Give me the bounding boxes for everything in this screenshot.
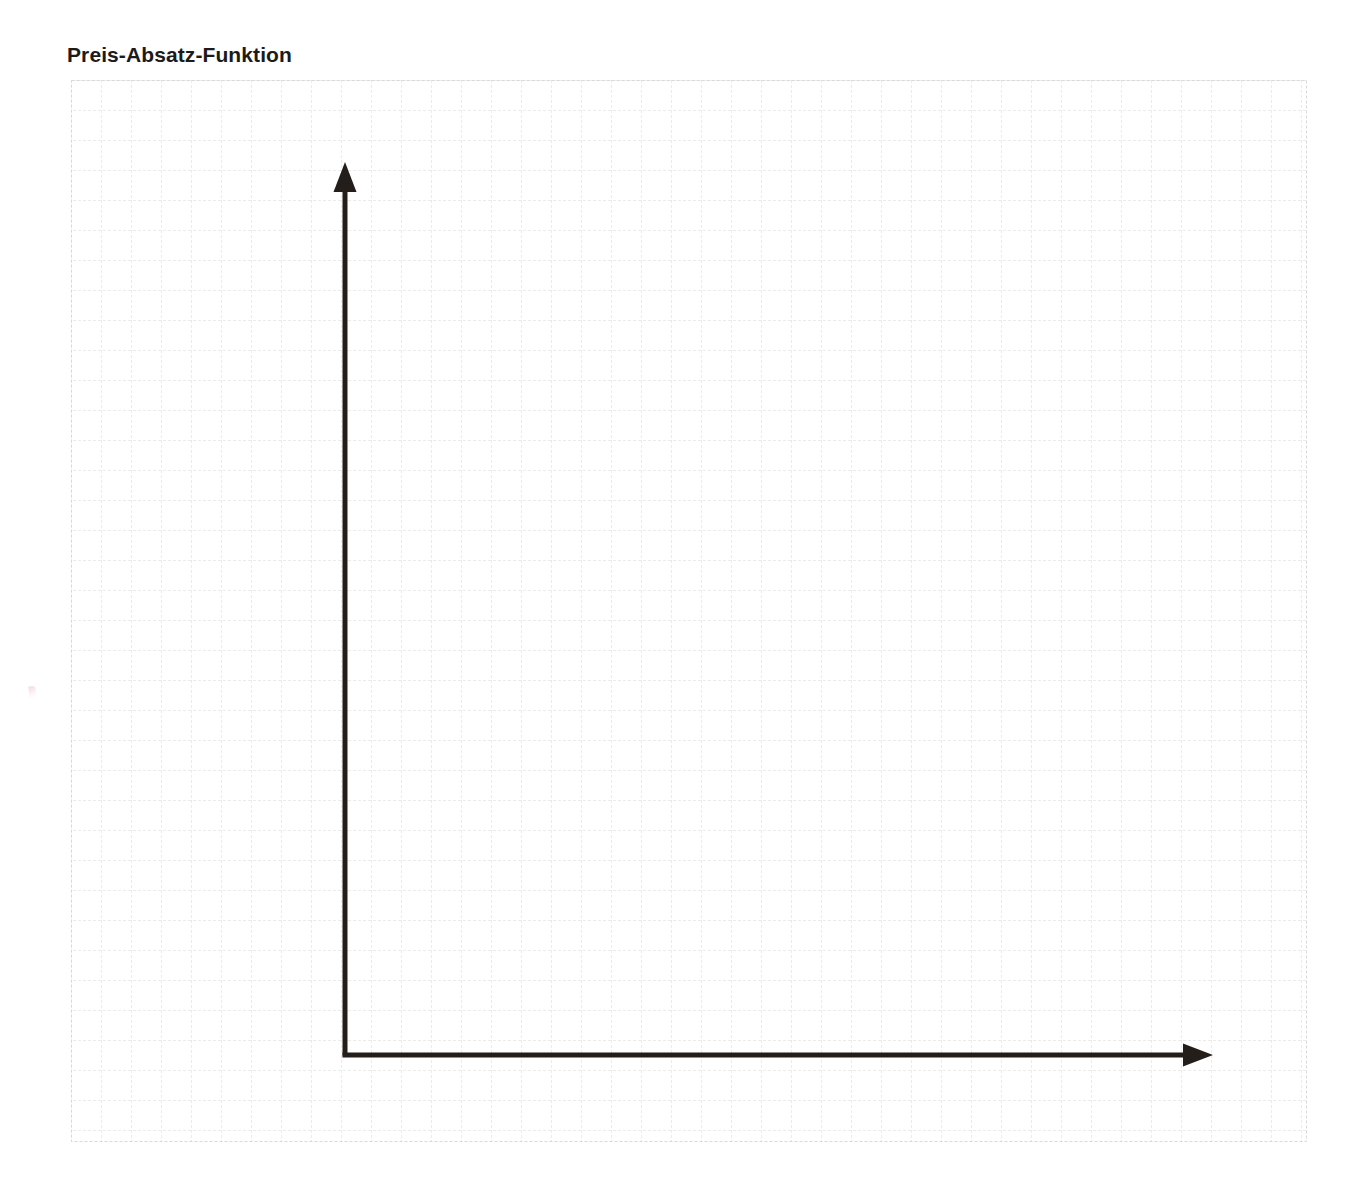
page-title: Preis-Absatz-Funktion <box>67 43 292 67</box>
grid-lines <box>71 80 1307 1142</box>
scan-artifact <box>28 686 37 699</box>
graph-paper-grid <box>71 80 1307 1142</box>
worksheet-page: Preis-Absatz-Funktion <box>0 0 1356 1189</box>
